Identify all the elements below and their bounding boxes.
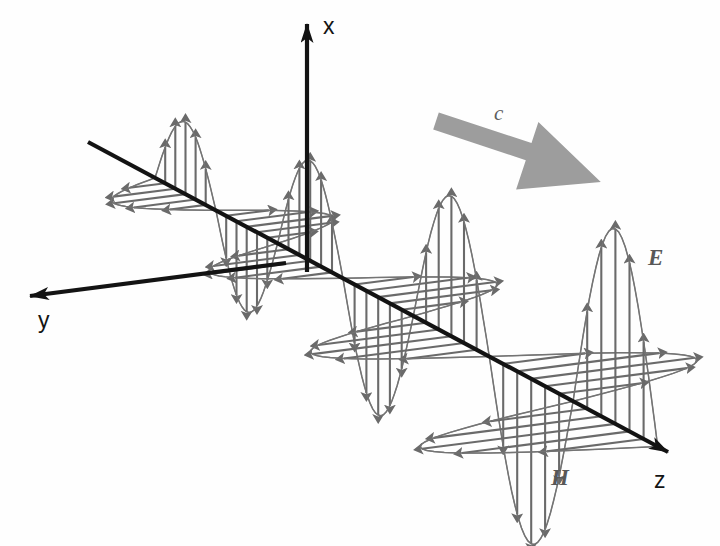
h-field-vector: [344, 343, 464, 359]
propagation-direction-arrow: [433, 113, 601, 190]
x-axis-label: x: [323, 13, 335, 39]
em-wave-diagram: x y z E H c: [0, 0, 720, 546]
h-field-vector: [366, 278, 467, 291]
h-field-vector: [134, 200, 196, 208]
electric-field-label: E: [647, 245, 663, 270]
speed-of-light-label: c: [494, 101, 504, 125]
z-axis-label: z: [654, 467, 666, 493]
magnetic-field-label: H: [550, 465, 570, 490]
h-field-vector: [226, 210, 269, 215]
h-field-vector: [170, 205, 206, 210]
figure-canvas: x y z E H c: [0, 0, 720, 546]
wave-field-group: [111, 121, 696, 544]
y-axis-label: y: [38, 307, 50, 333]
axis-group: [30, 24, 668, 452]
h-field-vector: [114, 189, 176, 197]
h-field-envelope: [489, 353, 697, 402]
h-field-vector: [531, 358, 695, 379]
propagation-arrow-shape: [433, 113, 601, 190]
